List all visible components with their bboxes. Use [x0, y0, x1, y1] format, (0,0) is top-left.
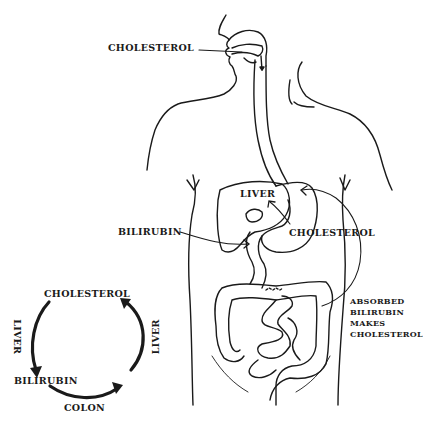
cycle-label-liver-left: LIVER	[13, 319, 23, 354]
absorbed-loop-arrow	[302, 189, 361, 306]
torso-left	[189, 175, 195, 405]
cycle-arrow-bottom	[50, 386, 118, 398]
cycle-arrow-right	[126, 302, 143, 370]
mouth-pointer-line	[199, 50, 242, 52]
note-line-3: MAKES	[350, 318, 423, 329]
label-mouth-cholesterol: CHOLESTEROL	[108, 43, 194, 53]
neck-right	[298, 62, 392, 190]
esophagus-right	[266, 66, 288, 184]
label-liver: LIVER	[240, 189, 275, 199]
note-line-4: CHOLESTEROL	[350, 329, 423, 340]
palate	[232, 44, 263, 56]
note-line-2: BILIRUBIN	[350, 307, 423, 318]
esophagus-left	[254, 60, 276, 186]
duodenum	[246, 232, 254, 284]
cycle-arrow-left	[32, 302, 49, 370]
cycle-label-cholesterol: CHOLESTEROL	[44, 289, 130, 299]
cycle-label-bilirubin: BILIRUBIN	[14, 376, 78, 386]
label-bilirubin: BILIRUBIN	[118, 227, 182, 237]
gallbladder	[246, 209, 262, 222]
note-line-1: ABSORBED	[350, 296, 423, 307]
face-profile	[147, 15, 236, 170]
small-intestine	[258, 296, 293, 358]
cycle-label-colon: COLON	[64, 403, 105, 413]
absorbed-bilirubin-note: ABSORBED BILIRUBIN MAKES CHOLESTEROL	[350, 296, 423, 340]
cycle-label-liver-right: LIVER	[151, 319, 161, 354]
torso-right	[338, 175, 345, 405]
label-stomach-cholesterol: CHOLESTEROL	[289, 228, 375, 238]
